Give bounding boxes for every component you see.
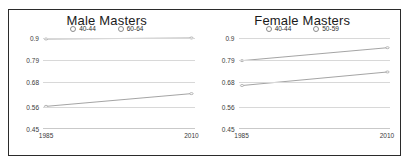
gridline [43,38,195,39]
figure-panel: Male Masters 0.90.790.680.560.4519852010… [8,9,401,156]
y-axis-tick-label: 0.56 [26,103,39,110]
x-axis-line [43,128,195,129]
series-lines-female [239,38,391,129]
series-line [46,94,191,107]
y-axis-tick-label: 0.79 [222,57,235,64]
chart-female-masters: Female Masters 0.90.790.680.560.45198520… [205,10,401,155]
series-line [242,72,387,86]
x-axis-tick-label: 1985 [39,132,53,139]
series-marker [385,71,388,73]
gridline [43,60,195,61]
y-axis-tick-label: 0.68 [222,79,235,86]
x-axis-line [239,128,391,129]
series-marker [385,47,388,49]
y-axis-tick-label: 0.45 [222,126,235,133]
chart-title: Male Masters [9,13,205,28]
x-axis-tick-label: 2010 [184,132,198,139]
y-axis-tick-label: 0.9 [30,35,39,42]
y-axis-tick-label: 0.45 [26,126,39,133]
x-axis-tick-label: 2010 [380,132,394,139]
x-axis-tick-label: 1985 [234,132,248,139]
chart-title: Female Masters [205,13,401,28]
gridline [239,107,391,108]
series-marker [240,85,243,87]
y-axis-tick-label: 0.9 [225,35,234,42]
gridline [43,82,195,83]
plot-area-male: 0.90.790.680.560.4519852010 [43,38,195,129]
gridline [239,60,391,61]
plot-area-female: 0.90.790.680.560.4519852010 [239,38,391,129]
series-line [242,48,387,61]
series-marker [190,93,193,95]
y-axis-tick-label: 0.79 [26,57,39,64]
chart-male-masters: Male Masters 0.90.790.680.560.4519852010… [9,10,205,155]
charts-row: Male Masters 0.90.790.680.560.4519852010… [9,10,400,155]
gridline [239,82,391,83]
gridline [43,107,195,108]
series-lines-male [43,38,195,129]
gridline [239,38,391,39]
y-axis-tick-label: 0.68 [26,79,39,86]
y-axis-tick-label: 0.56 [222,103,235,110]
